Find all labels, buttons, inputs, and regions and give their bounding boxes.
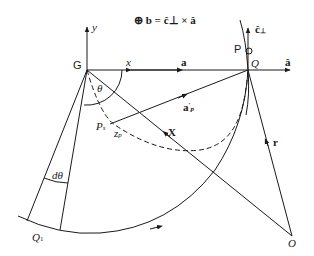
point-ps-label: Ps — [96, 121, 105, 132]
zp-label: zp — [114, 128, 122, 139]
ps-main: P — [96, 120, 103, 132]
point-q-label: Q — [251, 58, 259, 69]
theta-label: θ — [97, 83, 102, 94]
vector-r-label: r — [273, 137, 278, 148]
diagram-svg — [0, 0, 314, 256]
q1-main: Q — [32, 231, 40, 243]
dashed-arc — [87, 70, 248, 151]
x-axis-label: x — [126, 57, 131, 68]
vector-a-p-prime — [110, 70, 248, 124]
vector-x-label: X — [168, 127, 176, 138]
vector-a-hat-label: â — [285, 57, 291, 68]
point-o-label: O — [288, 238, 296, 249]
point-p-label: P — [234, 44, 241, 55]
point-g-label: G — [73, 60, 82, 71]
ap-sub: p — [190, 105, 194, 113]
vector-a-p-label: a′p — [183, 102, 194, 113]
dtheta-label: dθ — [52, 170, 63, 181]
wedge-line-left — [27, 70, 87, 221]
zp-sub: p — [118, 131, 122, 139]
vector-c-perp-label: ĉ⊥ — [255, 24, 266, 35]
c-perp-sub: ⊥ — [260, 27, 266, 35]
ps-sub: s — [103, 124, 106, 132]
q1-sub: 1 — [40, 235, 44, 243]
y-axis-label: y — [92, 22, 97, 33]
theta-arc — [84, 70, 122, 105]
diagram-canvas: ⊕ b = ĉ⊥ × â y x G Q P O Q1 Ps zp a â ĉ⊥… — [0, 0, 314, 256]
vector-x — [87, 70, 292, 236]
arc-q1-q — [18, 70, 248, 233]
vector-a-label: a — [181, 57, 187, 68]
equation-b: ⊕ b = ĉ⊥ × â — [134, 15, 196, 26]
equation-text: ⊕ b = ĉ⊥ × â — [134, 14, 196, 26]
wedge-line-right — [60, 70, 87, 230]
point-p — [246, 48, 252, 54]
vector-r — [248, 70, 292, 236]
point-q1-label: Q1 — [32, 232, 43, 243]
